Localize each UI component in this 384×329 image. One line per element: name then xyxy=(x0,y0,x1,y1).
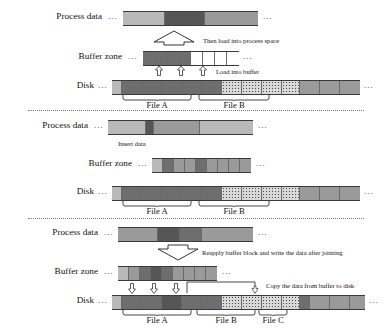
bar-cell xyxy=(162,267,173,280)
leading-ellipsis: ... xyxy=(128,47,138,65)
note-then-load-into-process-space: Then load into process space xyxy=(203,36,279,45)
buffer-zone-bar xyxy=(118,266,217,281)
bar-cell xyxy=(320,81,340,94)
bar-cell xyxy=(242,81,262,94)
bar-cell xyxy=(142,81,162,94)
bar-cell xyxy=(196,159,207,172)
bar-cell xyxy=(300,187,320,200)
row-label-process-data: Process data xyxy=(4,116,88,134)
note-reapply-buffer-block: Reapply buffer block and write the data … xyxy=(202,248,343,257)
bar-cell xyxy=(222,296,242,309)
panel-load: Process data ... ... Then load into proc… xyxy=(0,0,384,108)
disk-bar xyxy=(112,80,360,95)
copy-to-disk-arrow-icon xyxy=(128,283,136,294)
bar-cell xyxy=(180,228,202,241)
bar-cell xyxy=(242,187,262,200)
bar-cell xyxy=(320,187,340,200)
bar-cell xyxy=(165,12,205,25)
bar-cell xyxy=(143,52,155,65)
row-label-process-data: Process data xyxy=(14,223,98,241)
row-label-buffer-zone: Buffer zone xyxy=(48,154,132,172)
bar-cell xyxy=(185,159,196,172)
load-into-buffer-arrow-icon xyxy=(155,66,163,76)
trailing-ellipsis: ... xyxy=(243,47,253,65)
bar-cell xyxy=(154,121,200,134)
bar-cell xyxy=(142,187,162,200)
leading-ellipsis: ... xyxy=(104,262,114,280)
bar-cell xyxy=(112,296,122,309)
bar-cell xyxy=(222,187,242,200)
file-a-label: File A xyxy=(122,206,192,217)
leading-ellipsis: ... xyxy=(108,7,118,25)
bar-cell xyxy=(112,187,122,200)
reapply-buffer-arrow-icon xyxy=(156,244,200,261)
bar-cell xyxy=(207,159,218,172)
bar-cell xyxy=(118,267,129,280)
bar-cell xyxy=(162,187,182,200)
bar-cell xyxy=(155,52,167,65)
file-c-label: File C xyxy=(251,315,295,326)
note-copy-data-from-buffer-to-disk: Copy the data from buffer to disk xyxy=(266,281,354,290)
copy-to-disk-arrow-icon xyxy=(150,283,158,294)
bar-cell xyxy=(300,296,310,309)
note-load-into-buffer: Load into buffer xyxy=(216,67,259,76)
row-label-disk: Disk xyxy=(38,291,94,309)
file-a-label: File A xyxy=(122,315,192,326)
leading-ellipsis: ... xyxy=(98,76,108,94)
load-into-buffer-arrow-icon xyxy=(199,66,207,76)
bar-cell xyxy=(282,187,300,200)
process-data-bar xyxy=(108,120,253,135)
trailing-ellipsis: ... xyxy=(222,262,232,280)
bar-cell xyxy=(162,296,182,309)
trailing-ellipsis: ... xyxy=(256,154,266,172)
row-label-buffer-zone: Buffer zone xyxy=(38,47,122,65)
buffer-to-disk-connector-icon xyxy=(185,280,261,294)
bar-cell xyxy=(202,296,222,309)
file-b-label: File B xyxy=(196,315,256,326)
bar-cell xyxy=(282,81,300,94)
note-insert-data: Insert data xyxy=(118,139,146,148)
bar-cell xyxy=(151,267,162,280)
trailing-ellipsis: ... xyxy=(364,182,374,200)
trailing-ellipsis: ... xyxy=(364,76,374,94)
bar-cell xyxy=(123,12,165,25)
load-into-process-arrow-icon xyxy=(152,30,196,46)
bar-cell xyxy=(240,159,251,172)
leading-ellipsis: ... xyxy=(98,291,108,309)
bar-cell xyxy=(146,121,154,134)
bar-cell xyxy=(142,296,162,309)
bar-cell xyxy=(206,267,217,280)
buffer-zone-bar xyxy=(152,158,251,173)
trailing-ellipsis: ... xyxy=(369,291,379,309)
bar-cell xyxy=(152,159,163,172)
process-data-bar xyxy=(118,227,253,242)
bar-cell xyxy=(174,159,185,172)
bar-cell xyxy=(340,187,360,200)
bar-cell xyxy=(262,187,282,200)
file-b-label: File B xyxy=(198,206,270,217)
bar-cell xyxy=(184,267,195,280)
leading-ellipsis: ... xyxy=(94,116,104,134)
bar-cell xyxy=(191,52,203,65)
bar-cell xyxy=(203,52,215,65)
bar-cell xyxy=(112,81,122,94)
bar-cell xyxy=(179,52,191,65)
bar-cell xyxy=(162,81,182,94)
disk-bar xyxy=(112,295,365,310)
row-label-disk: Disk xyxy=(38,182,94,200)
row-label-buffer-zone: Buffer zone xyxy=(14,262,98,280)
process-data-bar xyxy=(123,11,258,26)
bar-cell xyxy=(229,159,240,172)
bar-cell xyxy=(182,296,202,309)
bar-cell xyxy=(182,187,202,200)
bar-cell xyxy=(202,187,222,200)
leading-ellipsis: ... xyxy=(98,182,108,200)
panel-insert: Process data ... ... Insert data Buffer … xyxy=(0,112,384,216)
load-into-buffer-arrow-icon xyxy=(177,66,185,76)
trailing-ellipsis: ... xyxy=(263,7,273,25)
bar-cell xyxy=(205,12,258,25)
bar-cell xyxy=(350,296,365,309)
panel-writeback: Process data ... ... Reapply buffer bloc… xyxy=(0,220,384,329)
bar-cell xyxy=(222,81,242,94)
row-label-disk: Disk xyxy=(38,76,94,94)
